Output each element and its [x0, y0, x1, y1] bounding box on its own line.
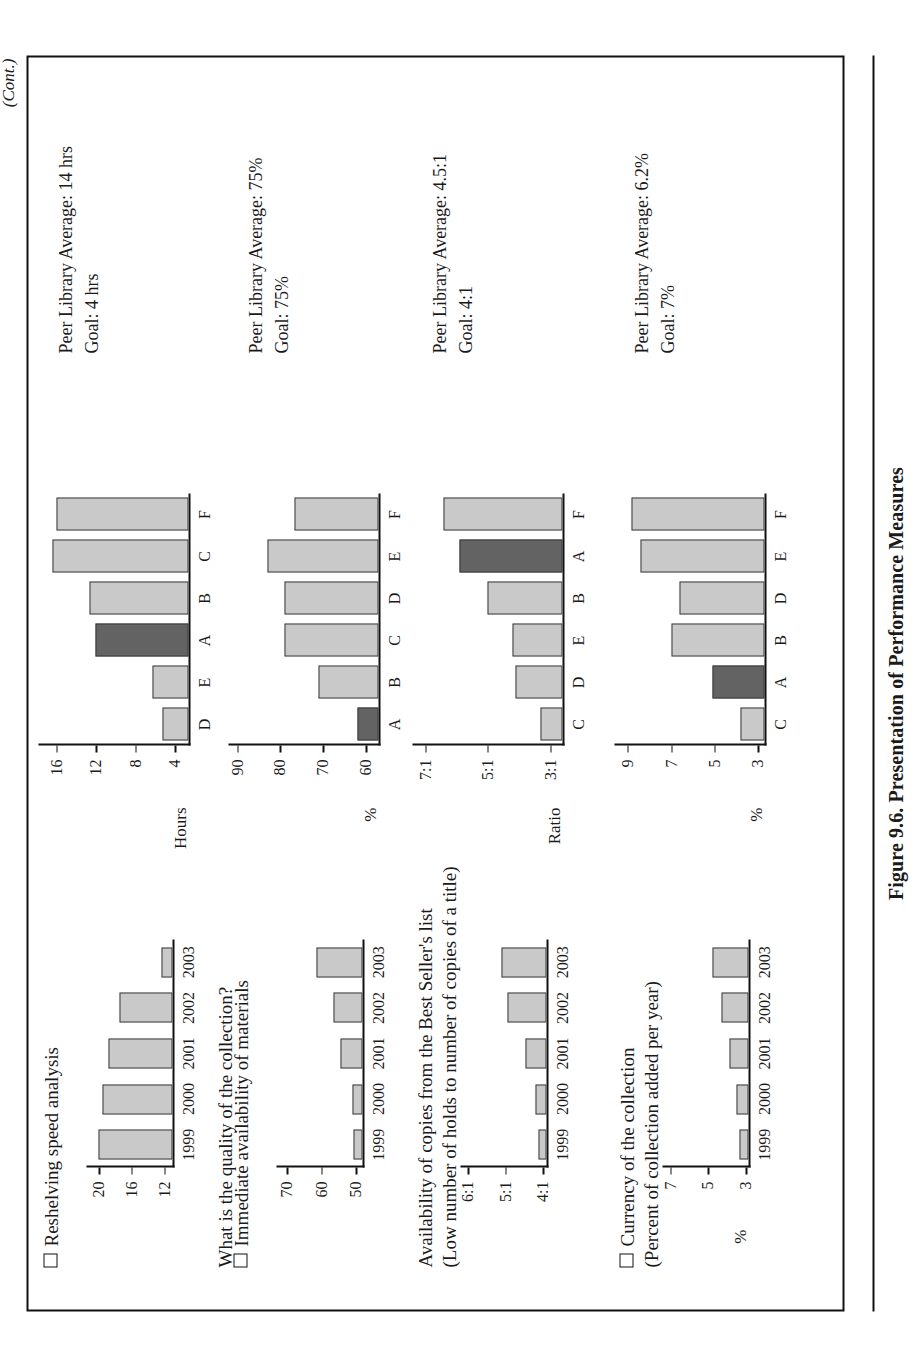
currency-collection-trend-tick-label: 7	[661, 1181, 679, 1225]
currency-collection-benchmark-cat-label: F	[771, 493, 789, 535]
currency-collection-benchmark-bar	[740, 708, 764, 741]
currency-collection-trend-tick	[707, 1167, 708, 1174]
currency-collection-trend-axis-name: %	[730, 1229, 750, 1283]
currency-collection-benchmark-bar	[671, 624, 764, 657]
currency-collection-benchmark-bar	[679, 582, 764, 615]
rotated-page: (Cont.) Figure 9.6. Presentation of Perf…	[0, 0, 923, 1363]
peer-average-text: Peer Library Average: 6.2%	[628, 152, 654, 353]
currency-collection-benchmark-cat-label: D	[771, 577, 789, 619]
section-subtitle-currency-collection: (Percent of collection added per year)	[640, 981, 662, 1267]
currency-collection-trend-cat-label: 1999	[755, 1121, 773, 1167]
currency-collection-benchmark-tick	[627, 745, 628, 752]
currency-collection-benchmark-bar	[640, 540, 764, 573]
currency-collection-trend-y-axis	[662, 1165, 750, 1167]
currency-collection-trend-chart: 35719992000200120022003%	[662, 939, 748, 1167]
currency-collection-trend-cat-label: 2002	[755, 985, 773, 1031]
goal-text: Goal: 7%	[654, 152, 680, 353]
currency-collection-trend-bar	[739, 1129, 748, 1159]
currency-collection-benchmark-cat-label: A	[771, 661, 789, 703]
currency-collection-trend-bar	[712, 947, 748, 977]
currency-collection-trend-cat-label: 2001	[755, 1030, 773, 1076]
currency-collection-trend-cat-label: 2003	[755, 939, 773, 985]
peer-goal-currency-collection: Peer Library Average: 6.2%Goal: 7%	[628, 152, 680, 353]
currency-collection-benchmark-cat-label: B	[771, 619, 789, 661]
currency-collection-benchmark-bar	[712, 666, 764, 699]
currency-collection-trend-tick-label: 3	[736, 1181, 754, 1225]
currency-collection-trend-tick	[670, 1167, 671, 1174]
currency-collection-benchmark-tick-label: 5	[705, 759, 723, 803]
checkbox-icon[interactable]	[619, 1253, 633, 1267]
currency-collection-trend-cat-label: 2000	[755, 1076, 773, 1122]
section-title-currency-collection: Currency of the collection	[616, 1047, 638, 1267]
currency-collection-benchmark-tick	[714, 745, 715, 752]
currency-collection-benchmark-tick-label: 7	[662, 759, 680, 803]
currency-collection-benchmark-bar	[631, 498, 764, 531]
section-title-text: Currency of the collection	[616, 1047, 637, 1246]
currency-collection-benchmark-cat-label: E	[771, 535, 789, 577]
currency-collection-trend-bar	[729, 1038, 748, 1068]
currency-collection-trend-bar	[721, 992, 748, 1022]
currency-collection-benchmark-tick	[757, 745, 758, 752]
page-sheet: (Cont.) Figure 9.6. Presentation of Perf…	[0, 0, 923, 1363]
currency-collection-benchmark-tick-label: 9	[618, 759, 636, 803]
currency-collection-benchmark-chart: 3579CABDEF%	[614, 493, 764, 745]
currency-collection-benchmark-tick	[671, 745, 672, 752]
currency-collection-benchmark-axis-name: %	[746, 807, 766, 861]
currency-collection-benchmark-cat-label: C	[771, 703, 789, 745]
currency-collection-trend-tick-label: 5	[698, 1181, 716, 1225]
currency-collection-trend-bar	[736, 1084, 748, 1114]
currency-collection-benchmark-tick-label: 3	[748, 759, 766, 803]
currency-collection-benchmark-y-axis	[614, 743, 766, 745]
currency-collection-trend-tick	[745, 1167, 746, 1174]
section-currency-collection: Currency of the collection(Percent of co…	[0, 0, 923, 1363]
